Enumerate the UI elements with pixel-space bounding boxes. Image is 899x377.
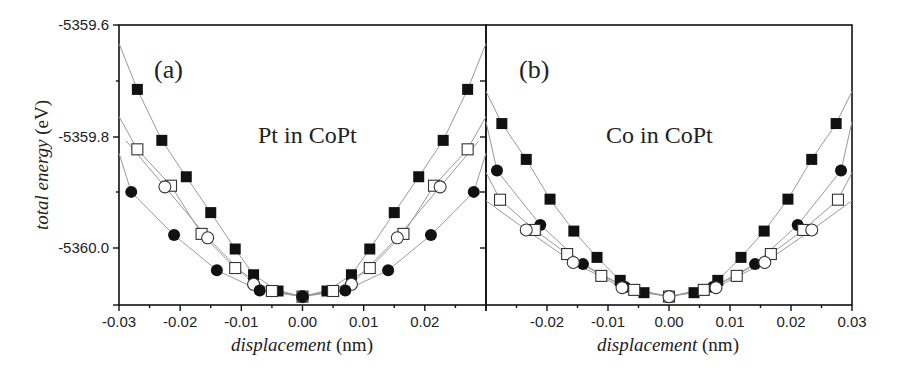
marker-open-circle [520, 224, 532, 236]
marker-filled-circle [339, 284, 351, 296]
marker-filled-circle [211, 264, 223, 276]
marker-open-circle [567, 256, 579, 268]
marker-open-circle [391, 232, 403, 244]
marker-filled-square [545, 194, 556, 205]
panel-b-annotation: Co in CoPt [606, 122, 713, 148]
marker-open-square [698, 284, 709, 295]
marker-open-square [462, 144, 473, 155]
marker-filled-circle [382, 264, 394, 276]
y-tick-label: -5360.0 [58, 239, 109, 256]
x-tick-label: 0.00 [288, 313, 317, 330]
panel-a-annotation: Pt in CoPt [258, 122, 357, 148]
x-tick-label: -0.02 [530, 313, 564, 330]
marker-filled-square [759, 226, 770, 237]
marker-open-square [832, 194, 843, 205]
x-tick-label: -0.01 [591, 313, 625, 330]
marker-filled-square [782, 194, 793, 205]
y-tick-label: -5359.8 [58, 128, 109, 145]
x-tick-label: 0.02 [776, 313, 805, 330]
marker-open-square [266, 286, 277, 297]
x-axis-title-a: displacement (nm) [231, 334, 373, 356]
marker-open-circle [616, 282, 628, 294]
panel-a-tag: (a) [154, 55, 183, 84]
marker-open-circle [806, 224, 818, 236]
x-tick-label: -0.01 [224, 313, 258, 330]
marker-filled-circle [168, 229, 180, 241]
marker-open-square [629, 284, 640, 295]
marker-filled-circle [254, 284, 266, 296]
marker-open-circle [759, 256, 771, 268]
marker-filled-square [496, 118, 507, 129]
x-axis-title-b: displacement (nm) [597, 334, 739, 356]
fit-curve [126, 141, 478, 297]
marker-filled-circle [491, 165, 503, 177]
marker-filled-square [230, 244, 241, 255]
x-tick-label: 0.03 [837, 313, 866, 330]
marker-filled-square [831, 118, 842, 129]
marker-filled-square [521, 154, 532, 165]
marker-filled-square [205, 207, 216, 218]
marker-open-square [328, 286, 339, 297]
y-axis: -5359.6 -5359.8 -5360.0 [58, 16, 486, 305]
x-tick-label: 0.00 [654, 313, 683, 330]
marker-open-square [364, 263, 375, 274]
marker-open-square [731, 270, 742, 281]
marker-filled-square [156, 135, 167, 146]
marker-filled-circle [425, 229, 437, 241]
marker-filled-square [568, 226, 579, 237]
marker-filled-square [592, 252, 603, 263]
marker-open-circle [159, 181, 171, 193]
x-tick-label: 0.02 [410, 313, 439, 330]
marker-filled-square [181, 171, 192, 182]
fit-curve [119, 153, 486, 297]
x-tick-label: -0.03 [102, 313, 136, 330]
marker-open-circle [710, 282, 722, 294]
marker-open-square [495, 194, 506, 205]
marker-open-circle [663, 291, 675, 303]
y-tick-label: -5359.6 [58, 16, 109, 33]
x-tick-label: 0.01 [349, 313, 378, 330]
figure: -5359.6 -5359.8 -5360.0 total energy (eV… [0, 0, 899, 377]
marker-filled-circle [468, 186, 480, 198]
y-axis-title: total energy (eV) [31, 100, 53, 230]
panel-b-tag: (b) [519, 55, 549, 84]
marker-filled-square [462, 84, 473, 95]
x-axis-b: -0.02-0.010.000.010.020.03 [486, 305, 867, 330]
marker-filled-square [389, 207, 400, 218]
marker-open-square [596, 270, 607, 281]
x-tick-label: -0.02 [163, 313, 197, 330]
marker-filled-square [413, 171, 424, 182]
marker-open-circle [202, 232, 214, 244]
marker-open-square [230, 263, 241, 274]
marker-filled-circle [125, 186, 137, 198]
marker-open-circle [434, 181, 446, 193]
fit-curve [486, 173, 852, 297]
marker-filled-square [132, 84, 143, 95]
marker-open-square [132, 144, 143, 155]
marker-filled-square [806, 154, 817, 165]
fit-curve [486, 201, 852, 297]
marker-filled-square [364, 244, 375, 255]
marker-filled-circle [297, 291, 309, 303]
x-tick-label: 0.01 [715, 313, 744, 330]
marker-filled-circle [835, 165, 847, 177]
x-axis-a: -0.03-0.02-0.010.000.010.02 [102, 305, 486, 330]
marker-filled-square [438, 135, 449, 146]
marker-filled-square [735, 252, 746, 263]
